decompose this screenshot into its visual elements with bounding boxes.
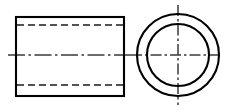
front-view	[8, 17, 132, 96]
technical-drawing-canvas: Hollow Cylinder Orthographic Drawing	[0, 0, 231, 110]
side-view	[131, 5, 222, 105]
drawing-svg: Hollow Cylinder Orthographic Drawing	[0, 0, 231, 110]
